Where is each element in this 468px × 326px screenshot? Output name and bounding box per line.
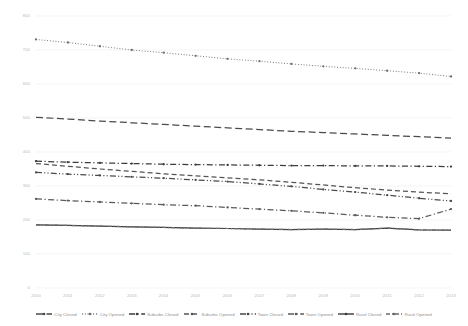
data-point: [226, 206, 228, 208]
data-point: [163, 52, 165, 54]
data-point: [386, 194, 388, 196]
data-point: [322, 212, 324, 214]
data-point: [450, 208, 452, 210]
legend-item-label: Town Opened: [306, 312, 333, 317]
legend-item-label: City Closed: [54, 312, 77, 317]
y-axis-tick-label: 800: [4, 13, 30, 18]
data-point: [194, 179, 196, 181]
data-point: [258, 183, 260, 185]
legend-key-icon: [338, 311, 354, 317]
data-point: [131, 49, 133, 51]
legend-key-icon: [184, 311, 200, 317]
data-point: [258, 208, 260, 210]
data-point: [99, 45, 101, 47]
data-point: [258, 164, 260, 166]
legend-item-label: Suburbs Opened: [202, 312, 235, 317]
legend-key-icon: [82, 311, 98, 317]
data-point: [354, 67, 356, 69]
chart-legend: City ClosedCity OpenedSuburbs ClosedSubu…: [0, 307, 468, 321]
data-point: [194, 163, 196, 165]
data-point: [418, 197, 420, 199]
data-point: [35, 198, 37, 200]
y-axis-tick-label: 100: [4, 251, 30, 256]
y-axis-tick-label: 700: [4, 47, 30, 52]
legend-item[interactable]: Suburbs Closed: [129, 311, 178, 317]
x-axis-tick-label: 2000: [23, 293, 49, 298]
series-line-suburbs-closed: [36, 161, 451, 166]
data-point: [194, 205, 196, 207]
y-axis-tick-label: 600: [4, 81, 30, 86]
data-point: [131, 202, 133, 204]
data-point: [99, 174, 101, 176]
legend-item[interactable]: Rural Closed: [338, 311, 381, 317]
legend-item[interactable]: Suburbs Opened: [184, 311, 235, 317]
series-line-town-closed: [36, 172, 451, 201]
legend-item[interactable]: Rural Opened: [386, 311, 431, 317]
data-point: [67, 41, 69, 43]
data-point: [67, 173, 69, 175]
data-point: [386, 70, 388, 72]
data-point: [99, 201, 101, 203]
data-point: [194, 55, 196, 57]
data-point: [322, 164, 324, 166]
legend-item[interactable]: Town Opened: [288, 311, 333, 317]
x-axis-tick-label: 2011: [374, 293, 400, 298]
data-point: [290, 210, 292, 212]
x-axis-tick-label: 2002: [87, 293, 113, 298]
data-point: [418, 165, 420, 167]
data-point: [354, 165, 356, 167]
y-axis-tick-label: 0: [4, 285, 30, 290]
data-point: [67, 161, 69, 163]
data-point: [163, 204, 165, 206]
data-point: [386, 216, 388, 218]
data-point: [386, 165, 388, 167]
data-point: [35, 38, 37, 40]
data-point: [131, 162, 133, 164]
data-point: [322, 188, 324, 190]
data-point: [226, 58, 228, 60]
data-point: [354, 191, 356, 193]
x-axis-tick-label: 2009: [310, 293, 336, 298]
series-line-town-opened: [36, 199, 451, 219]
legend-item[interactable]: City Opened: [82, 311, 124, 317]
x-axis-tick-label: 2012: [406, 293, 432, 298]
legend-key-icon: [386, 311, 402, 317]
y-axis-tick-label: 300: [4, 183, 30, 188]
data-point: [163, 163, 165, 165]
data-point: [450, 200, 452, 202]
data-point: [290, 185, 292, 187]
x-axis-tick-label: 2013: [438, 293, 464, 298]
data-point: [67, 199, 69, 201]
data-point: [418, 72, 420, 74]
legend-item[interactable]: City Closed: [36, 311, 77, 317]
data-point: [290, 63, 292, 65]
data-point: [226, 164, 228, 166]
data-point: [450, 165, 452, 167]
data-point: [354, 214, 356, 216]
chart-container: 0100200300400500600700800 20002001200220…: [0, 0, 468, 326]
x-axis-tick-label: 2010: [342, 293, 368, 298]
legend-item[interactable]: Town Closed: [240, 311, 283, 317]
legend-item-label: Rural Opened: [404, 312, 431, 317]
legend-item-label: Rural Closed: [356, 312, 381, 317]
y-axis-tick-label: 200: [4, 217, 30, 222]
x-axis-tick-label: 2006: [215, 293, 241, 298]
data-point: [131, 176, 133, 178]
y-axis-tick-label: 400: [4, 149, 30, 154]
x-axis-tick-label: 2001: [55, 293, 81, 298]
legend-key-icon: [129, 311, 145, 317]
y-axis-tick-label: 500: [4, 115, 30, 120]
x-axis-tick-label: 2004: [151, 293, 177, 298]
data-point: [99, 162, 101, 164]
x-axis-tick-label: 2008: [278, 293, 304, 298]
legend-item-label: City Opened: [100, 312, 124, 317]
data-point: [418, 217, 420, 219]
legend-key-icon: [288, 311, 304, 317]
line-chart-plot: [0, 0, 468, 326]
data-point: [226, 180, 228, 182]
series-line-city-opened: [36, 39, 451, 76]
series-line-city-closed: [36, 117, 451, 138]
x-axis-tick-label: 2007: [246, 293, 272, 298]
series-line-suburbs-opened: [36, 164, 451, 194]
data-point: [450, 75, 452, 77]
